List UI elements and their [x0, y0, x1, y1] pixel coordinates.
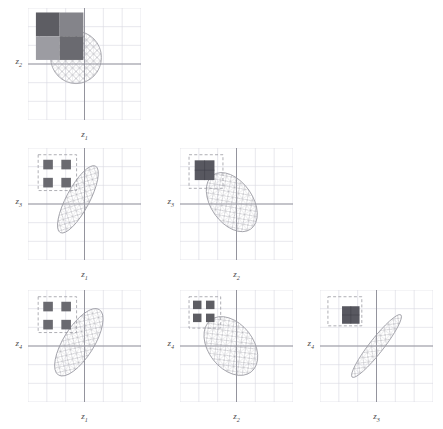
panel-z2-z1 [28, 8, 141, 120]
panel-z4-z1-xlabel-subscript: 1 [85, 417, 88, 423]
panel-z3-z1-xlabel: z1 [65, 270, 105, 281]
panel-z4-z2-inset-block-3 [206, 314, 214, 322]
panel-z3-z1-inset-block-0 [43, 160, 53, 170]
panel-z4-z2-inset-block-1 [206, 301, 214, 309]
panel-z4-z3-xlabel: z3 [357, 412, 397, 423]
panel-z3-z2-ylabel: z3 [154, 197, 174, 208]
panel-z2-z1-inset-block-0 [36, 12, 60, 36]
panel-z4-z2-xlabel: z2 [217, 412, 257, 423]
panel-z4-z2 [180, 290, 293, 402]
panel-z2-z1-inset-block-2 [36, 36, 60, 60]
panel-z4-z2-xlabel-subscript: 2 [237, 417, 240, 423]
panel-z3-z1-ylabel: z3 [2, 197, 22, 208]
panel-z4-z1-inset-block-1 [61, 302, 71, 312]
panel-z4-z3-inset-covariance-block [328, 297, 362, 326]
panel-z4-z3-ylabel: z4 [294, 339, 314, 350]
panel-z2-z1-ylabel-subscript: 2 [19, 62, 22, 68]
panel-z3-z2 [180, 148, 293, 260]
panel-z4-z1-ellipse [45, 301, 112, 383]
panel-z3-z1 [28, 148, 141, 260]
figure-canvas: z2z1z3z1z3z2z4z1z4z2z4z3 [0, 0, 443, 429]
panel-z3-z1-inset-block-2 [43, 178, 53, 188]
panel-z4-z2-inset-block-0 [193, 301, 201, 309]
panel-z4-z2-ylabel-subscript: 4 [171, 344, 174, 350]
panel-z4-z2-plot [180, 290, 293, 402]
panel-z2-z1-inset-block-3 [60, 36, 84, 60]
panel-z2-z1-xlabel: z1 [65, 130, 105, 141]
panel-z4-z3-plot [320, 290, 433, 402]
panel-z4-z2-inset-block-2 [193, 314, 201, 322]
panel-z3-z2-ylabel-subscript: 3 [171, 202, 174, 208]
panel-z2-z1-xlabel-subscript: 1 [85, 135, 88, 141]
panel-z4-z1-inset-block-3 [61, 320, 71, 330]
panel-z2-z1-inset-block-1 [60, 12, 84, 36]
panel-z2-z1-plot [28, 8, 141, 120]
panel-z3-z1-xlabel-subscript: 1 [85, 275, 88, 281]
panel-z3-z2-xlabel: z2 [217, 270, 257, 281]
panel-z4-z3-ylabel-subscript: 4 [311, 344, 314, 350]
panel-z2-z1-inset-covariance-block [36, 12, 83, 59]
panel-z4-z3-xlabel-subscript: 3 [377, 417, 380, 423]
panel-z4-z1-inset-block-2 [43, 320, 53, 330]
panel-z4-z1-ylabel-subscript: 4 [19, 344, 22, 350]
panel-z3-z2-plot [180, 148, 293, 260]
panel-z3-z1-ellipse [50, 161, 106, 238]
panel-z4-z2-ylabel: z4 [154, 339, 174, 350]
panel-z4-z1-xlabel: z1 [65, 412, 105, 423]
panel-z2-z1-ylabel: z2 [2, 57, 22, 68]
panel-z4-z1-plot [28, 290, 141, 402]
panel-z3-z1-inset-block-1 [61, 160, 71, 170]
panel-z3-z2-xlabel-subscript: 2 [237, 275, 240, 281]
panel-z4-z1-ylabel: z4 [2, 339, 22, 350]
panel-z4-z1 [28, 290, 141, 402]
panel-z3-z1-ylabel-subscript: 3 [19, 202, 22, 208]
panel-z4-z3 [320, 290, 433, 402]
panel-z3-z1-plot [28, 148, 141, 260]
panel-z4-z1-inset-block-0 [43, 302, 53, 312]
panel-z3-z1-inset-block-3 [61, 178, 71, 188]
